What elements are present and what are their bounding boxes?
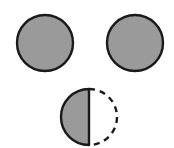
top-right-circle [107, 15, 163, 71]
diagram-svg [0, 0, 174, 148]
top-left-circle [17, 15, 73, 71]
figure-canvas [0, 0, 174, 148]
